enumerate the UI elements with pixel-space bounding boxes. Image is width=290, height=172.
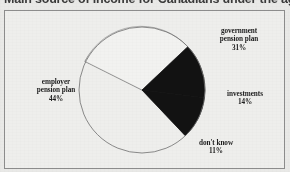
- chart-title: Main source of income for Canadians unde…: [4, 0, 290, 6]
- pie-label-investments: investments 14%: [205, 90, 285, 107]
- pie-label-government-line2: pension plan: [220, 35, 258, 43]
- pie-label-employer-line2: pension plan: [37, 86, 75, 94]
- pie-label-dont-know: don't know 11%: [178, 139, 254, 156]
- pie-label-employer-line1: employer: [42, 78, 70, 86]
- pie-slice-dont-know[interactable]: [142, 90, 205, 136]
- pie-label-dont-know-value: 11%: [178, 147, 254, 155]
- pie-label-investments-value: 14%: [205, 98, 285, 106]
- chart-title-strip: Main source of income for Canadians unde…: [0, 0, 290, 9]
- pie-label-dont-know-line1: don't know: [199, 139, 233, 147]
- pie-label-employer-value: 44%: [14, 95, 98, 103]
- pie-label-government-value: 31%: [196, 44, 282, 52]
- pie-label-employer-pension-plan: employer pension plan 44%: [14, 78, 98, 103]
- pie-label-government-pension-plan: government pension plan 31%: [196, 27, 282, 52]
- pie-label-investments-line1: investments: [227, 90, 263, 98]
- pie-label-government-line1: government: [221, 27, 257, 35]
